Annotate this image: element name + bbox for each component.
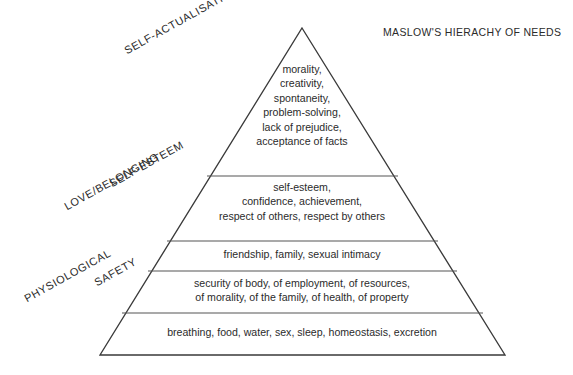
tier-content-safety: security of body, of employment, of reso… — [130, 276, 474, 305]
tier-content-self-esteem: self-esteem, confidence, achievement, re… — [176, 180, 428, 223]
tier-content-physiological: breathing, food, water, sex, sleep, home… — [108, 325, 496, 339]
tier-content-self-actualisation: morality, creativity, spontaneity, probl… — [206, 62, 398, 148]
tier-content-love-belonging: friendship, family, sexual intimacy — [152, 247, 452, 261]
maslow-pyramid-diagram: MASLOW'S HIERACHY OF NEEDS morality, cre… — [0, 0, 573, 375]
